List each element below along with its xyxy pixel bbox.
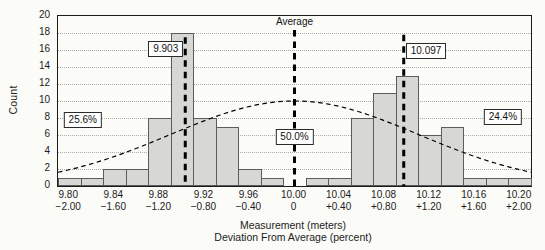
x-axis-title-meters: Measurement (meters) — [240, 219, 346, 231]
x-tick-meters: 10.08 — [371, 189, 396, 201]
pct-left-label: 25.6% — [64, 112, 102, 128]
y-tick-label: 2 — [16, 162, 50, 174]
x-tick-percent: −0.80 — [191, 201, 216, 213]
y-tick-label: 16 — [16, 43, 50, 55]
y-tick-label: 10 — [16, 94, 50, 106]
curve-and-lines-overlay — [58, 16, 531, 186]
x-tick-percent: +2.00 — [506, 201, 531, 213]
pct-center-label: 50.0% — [275, 129, 313, 145]
mean-right-label: 10.097 — [406, 43, 447, 59]
y-tick-label: 18 — [16, 26, 50, 38]
x-tick-meters: 10.04 — [326, 189, 351, 201]
y-tick-label: 12 — [16, 77, 50, 89]
x-tick-meters: 10.00 — [281, 189, 306, 201]
average-label: Average — [276, 16, 313, 28]
x-tick-meters: 9.96 — [239, 189, 258, 201]
y-tick-label: 0 — [16, 179, 50, 191]
x-tick-meters: 10.16 — [461, 189, 486, 201]
x-tick-meters: 9.84 — [104, 189, 123, 201]
histogram-figure: Count 02468101214161820 Average9.90310.0… — [0, 0, 545, 250]
x-tick-percent: +1.20 — [416, 201, 441, 213]
x-tick-meters: 10.12 — [416, 189, 441, 201]
x-tick-percent: +0.40 — [326, 201, 351, 213]
x-tick-meters: 9.92 — [194, 189, 213, 201]
x-tick-percent: +1.60 — [461, 201, 486, 213]
y-tick-label: 6 — [16, 128, 50, 140]
mean-left-label: 9.903 — [148, 41, 183, 57]
y-tick-label: 8 — [16, 111, 50, 123]
x-tick-percent: −1.20 — [146, 201, 171, 213]
x-tick-percent: −1.60 — [101, 201, 126, 213]
x-tick-percent: −2.00 — [56, 201, 81, 213]
y-tick-label: 4 — [16, 145, 50, 157]
x-tick-meters: 9.80 — [59, 189, 78, 201]
x-tick-meters: 9.88 — [149, 189, 168, 201]
y-tick-label: 14 — [16, 60, 50, 72]
x-tick-percent: +0.80 — [371, 201, 396, 213]
x-tick-percent: 0 — [291, 201, 297, 213]
pct-right-label: 24.4% — [484, 109, 522, 125]
plot-area: Average9.90310.09725.6%50.0%24.4% — [57, 15, 532, 187]
y-tick-label: 20 — [16, 9, 50, 21]
x-tick-percent: −0.40 — [236, 201, 261, 213]
x-axis-title-percent: Deviation From Average (percent) — [214, 231, 371, 243]
x-tick-meters: 10.20 — [506, 189, 531, 201]
